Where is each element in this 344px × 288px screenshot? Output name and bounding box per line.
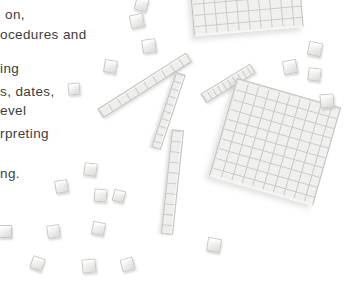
text-fragment: ocedures and [0, 28, 87, 42]
text-fragment: ng. [0, 167, 20, 181]
cropped-text-column: on,ocedures andings, dates,evelrpretingn… [0, 0, 344, 288]
text-fragment: rpreting [0, 127, 49, 141]
text-fragment: on, [5, 8, 25, 22]
text-fragment: ing [0, 62, 19, 76]
text-fragment: evel [0, 104, 26, 118]
text-fragment: s, dates, [0, 85, 55, 99]
document-page: on,ocedures andings, dates,evelrpretingn… [0, 0, 344, 288]
